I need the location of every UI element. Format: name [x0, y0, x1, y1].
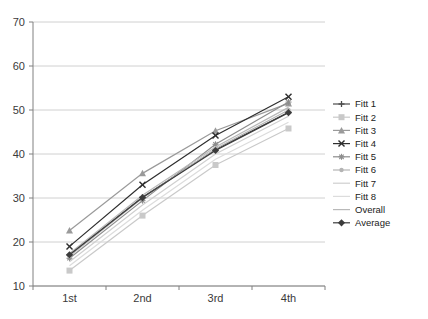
legend-label: Average — [355, 217, 390, 228]
x-tick-label-4th: 4th — [281, 292, 296, 304]
data-point-marker — [213, 162, 219, 168]
y-tick-label: 70 — [13, 16, 25, 28]
data-point-marker — [67, 268, 73, 274]
data-point-marker — [339, 154, 345, 160]
legend-label: Fitt 4 — [355, 138, 376, 149]
y-tick-label: 60 — [13, 60, 25, 72]
y-tick-label: 40 — [13, 148, 25, 160]
data-point-marker — [286, 99, 292, 105]
x-tick-label-2nd: 2nd — [133, 292, 151, 304]
chart-canvas: 10203040506070 1st2nd3rd4th Fitt 1Fitt 2… — [0, 0, 428, 319]
legend-label: Fitt 8 — [355, 191, 376, 202]
line-chart: 10203040506070 1st2nd3rd4th Fitt 1Fitt 2… — [0, 0, 428, 319]
legend-label: Fitt 3 — [355, 125, 376, 136]
legend-label: Fitt 6 — [355, 164, 376, 175]
legend-label: Fitt 1 — [355, 98, 376, 109]
y-tick-label: 20 — [13, 236, 25, 248]
legend-label: Fitt 7 — [355, 178, 376, 189]
legend-label: Overall — [355, 204, 385, 215]
data-point-marker — [339, 168, 343, 172]
x-tick-label-1st: 1st — [62, 292, 77, 304]
data-point-marker — [140, 213, 146, 219]
x-tick-label-3rd: 3rd — [208, 292, 224, 304]
legend-label: Fitt 2 — [355, 112, 376, 123]
legend-label: Fitt 5 — [355, 151, 376, 162]
data-point-marker — [286, 125, 292, 131]
y-tick-label: 10 — [13, 280, 25, 292]
data-point-marker — [339, 114, 345, 120]
y-tick-label: 50 — [13, 104, 25, 116]
y-tick-label: 30 — [13, 192, 25, 204]
